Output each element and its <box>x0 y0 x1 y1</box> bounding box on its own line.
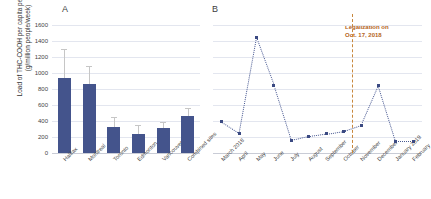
gridline-a <box>52 105 200 106</box>
line-segment <box>239 38 257 133</box>
y-tick-label: 600 <box>22 102 48 108</box>
data-point-march-2018 <box>220 120 223 123</box>
gridline-b <box>213 41 422 42</box>
y-tick-label: 1000 <box>22 70 48 76</box>
data-point-february <box>412 140 415 143</box>
gridline-a <box>52 73 200 74</box>
error-bar-cap <box>135 125 141 126</box>
error-bar <box>64 49 65 78</box>
gridline-b <box>213 25 422 26</box>
gridline-a <box>52 137 200 138</box>
gridline-b <box>213 137 422 138</box>
line-segment <box>273 85 291 140</box>
bar-vancouver <box>157 128 170 153</box>
gridline-b <box>213 89 422 90</box>
gridline-a <box>52 57 200 58</box>
line-segment <box>378 85 396 141</box>
bar-toronto <box>107 127 120 153</box>
y-axis-label: Load of THC-COOH per capita per week (g/… <box>16 0 32 98</box>
error-bar <box>138 125 139 134</box>
y-tick-label: 1200 <box>22 54 48 60</box>
error-bar-cap <box>86 66 92 67</box>
gridline-a <box>52 41 200 42</box>
y-tick-label: 800 <box>22 86 48 92</box>
error-bar <box>188 108 189 116</box>
error-bar <box>89 66 90 84</box>
gridline-a <box>52 89 200 90</box>
gridline-a <box>52 25 200 26</box>
data-point-july <box>290 139 293 142</box>
data-point-may <box>255 36 258 39</box>
error-bar-cap <box>185 108 191 109</box>
gridline-b <box>213 121 422 122</box>
bar-montreal <box>83 84 96 153</box>
gridline-b <box>213 73 422 74</box>
gridline-b <box>213 57 422 58</box>
error-bar-cap <box>111 117 117 118</box>
data-point-january-2019 <box>394 140 397 143</box>
panel-b-letter: B <box>212 4 218 14</box>
error-bar <box>114 117 115 126</box>
data-point-october <box>342 130 345 133</box>
line-segment <box>256 38 274 86</box>
y-tick-label: 400 <box>22 118 48 124</box>
gridline-a <box>52 121 200 122</box>
data-point-december <box>377 84 380 87</box>
y-tick-label: 0 <box>22 150 48 156</box>
data-point-september <box>325 132 328 135</box>
error-bar-cap <box>160 122 166 123</box>
y-tick-label: 200 <box>22 134 48 140</box>
x-tick-label-b: April <box>237 150 249 162</box>
data-point-june <box>272 84 275 87</box>
bar-combined-sites <box>181 116 194 153</box>
panel-a-letter: A <box>62 4 68 14</box>
x-tick-label-b: June <box>272 149 285 162</box>
error-bar-cap <box>61 49 67 50</box>
data-point-november <box>360 124 363 127</box>
data-point-april <box>238 132 241 135</box>
y-tick-label: 1600 <box>22 22 48 28</box>
legalization-line <box>352 14 353 153</box>
y-tick-label: 1400 <box>22 38 48 44</box>
bar-halifax <box>58 78 71 153</box>
line-segment <box>326 131 344 135</box>
data-point-august <box>307 135 310 138</box>
